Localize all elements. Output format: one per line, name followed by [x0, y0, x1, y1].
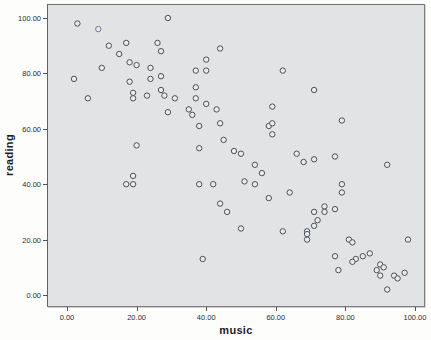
y-tick-label: 100.00 [5, 14, 41, 23]
data-point [405, 237, 410, 242]
data-point [117, 51, 122, 56]
data-point [148, 65, 153, 70]
data-point [322, 209, 327, 214]
data-point [339, 118, 344, 123]
data-point [238, 151, 243, 156]
x-tick-mark [415, 307, 416, 311]
data-point [266, 195, 271, 200]
data-point [402, 270, 407, 275]
data-point [144, 93, 149, 98]
x-tick-label: 100.00 [404, 313, 427, 322]
data-point [217, 201, 222, 206]
data-point [339, 190, 344, 195]
data-point [158, 87, 163, 92]
data-point [385, 162, 390, 167]
y-tick-label: 0.00 [5, 291, 41, 300]
data-point [71, 76, 76, 81]
data-point [130, 182, 135, 187]
x-tick-mark [206, 307, 207, 311]
data-point [385, 287, 390, 292]
data-point [238, 226, 243, 231]
scatter-points-canvas [48, 5, 424, 306]
data-point [339, 182, 344, 187]
data-point [155, 40, 160, 45]
x-tick-mark [276, 307, 277, 311]
data-point [134, 143, 139, 148]
data-point [287, 190, 292, 195]
x-axis-title: music [47, 324, 425, 336]
x-tick-mark [345, 307, 346, 311]
data-point [99, 65, 104, 70]
data-point [211, 182, 216, 187]
data-point [197, 146, 202, 151]
data-point [124, 40, 129, 45]
data-point [311, 87, 316, 92]
data-point [294, 151, 299, 156]
data-point [332, 154, 337, 159]
data-point [127, 79, 132, 84]
data-point [242, 179, 247, 184]
data-point [158, 49, 163, 54]
x-tick-mark [137, 307, 138, 311]
plot-area [47, 4, 425, 307]
data-point [214, 107, 219, 112]
data-point [106, 43, 111, 48]
data-point [217, 121, 222, 126]
y-tick-mark [43, 184, 47, 185]
x-tick-label: 40.00 [197, 313, 216, 322]
data-point [252, 182, 257, 187]
data-point [259, 170, 264, 175]
data-point [374, 267, 379, 272]
data-point [311, 223, 316, 228]
data-point [130, 90, 135, 95]
data-point [304, 231, 309, 236]
data-point [200, 256, 205, 261]
data-point [270, 132, 275, 137]
data-point [172, 96, 177, 101]
scatterplot-figure: reading 0.0020.0040.0060.0080.00100.000.… [0, 0, 431, 340]
data-point [315, 218, 320, 223]
data-point [127, 60, 132, 65]
y-tick-label: 20.00 [5, 235, 41, 244]
data-point [165, 15, 170, 20]
data-point [301, 159, 306, 164]
x-tick-label: 20.00 [127, 313, 146, 322]
data-point [193, 85, 198, 90]
data-point [221, 137, 226, 142]
data-point [350, 259, 355, 264]
data-point [367, 251, 372, 256]
data-point [311, 209, 316, 214]
data-point [224, 209, 229, 214]
data-point [204, 68, 209, 73]
data-point [197, 182, 202, 187]
data-point [148, 76, 153, 81]
y-axis-title: reading [3, 80, 15, 230]
data-point [124, 182, 129, 187]
data-point [130, 173, 135, 178]
data-point [336, 267, 341, 272]
data-point [395, 276, 400, 281]
data-point [332, 254, 337, 259]
data-point [231, 148, 236, 153]
y-tick-mark [43, 73, 47, 74]
data-point [360, 254, 365, 259]
data-point [378, 273, 383, 278]
data-point [162, 93, 167, 98]
data-point [134, 62, 139, 67]
y-tick-mark [43, 18, 47, 19]
data-point [304, 237, 309, 242]
data-point [270, 104, 275, 109]
data-point [85, 96, 90, 101]
data-point [217, 46, 222, 51]
x-tick-mark [67, 307, 68, 311]
x-tick-label: 60.00 [266, 313, 285, 322]
data-point [158, 74, 163, 79]
data-point [130, 96, 135, 101]
data-point [193, 68, 198, 73]
y-tick-mark [43, 129, 47, 130]
data-point [204, 57, 209, 62]
y-tick-label: 60.00 [5, 124, 41, 133]
data-point [322, 204, 327, 209]
data-point [311, 157, 316, 162]
data-point [280, 68, 285, 73]
